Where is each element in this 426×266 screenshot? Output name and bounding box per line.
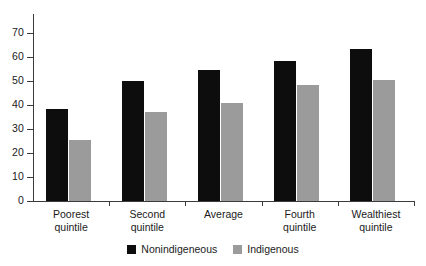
x-axis-category-label: Average	[185, 208, 261, 221]
y-axis-tick	[27, 129, 34, 130]
x-axis-tick	[185, 201, 186, 206]
y-axis-tick-label: 60	[0, 50, 24, 62]
y-axis-tick	[27, 177, 34, 178]
y-axis-tick	[27, 57, 34, 58]
x-axis-line	[33, 201, 414, 202]
x-axis-category-label: Wealthiestquintile	[338, 208, 414, 233]
y-axis-tick-label: 10	[0, 170, 24, 182]
y-axis-tick	[27, 105, 34, 106]
x-axis-tick	[414, 201, 415, 206]
x-axis-category-label: Fourthquintile	[262, 208, 338, 233]
bar	[198, 70, 220, 201]
y-axis-tick	[27, 201, 34, 202]
bar	[145, 112, 167, 201]
x-axis-tick	[109, 201, 110, 206]
legend-swatch-icon	[233, 245, 242, 254]
x-axis-category-label-line: quintile	[338, 221, 414, 234]
bar	[297, 85, 319, 201]
legend-item: Nonindigeneous	[127, 243, 217, 255]
bar	[122, 81, 144, 201]
y-axis-tick-label: 70	[0, 26, 24, 38]
y-axis-tick-label: 50	[0, 74, 24, 86]
bar	[373, 80, 395, 201]
x-axis-category-label-line: quintile	[109, 221, 185, 234]
chart-legend: NonindigeneousIndigenous	[0, 243, 426, 255]
x-axis-category-label-line: quintile	[33, 221, 109, 234]
legend-label: Nonindigeneous	[141, 243, 217, 255]
x-axis-tick	[338, 201, 339, 206]
x-axis-category-label-line: Average	[185, 208, 261, 221]
x-axis-category-label-line: Poorest	[33, 208, 109, 221]
x-axis-category-label: Secondquintile	[109, 208, 185, 233]
bar	[69, 140, 91, 201]
x-axis-category-label: Poorestquintile	[33, 208, 109, 233]
legend-label: Indigenous	[247, 243, 298, 255]
y-axis-tick	[27, 81, 34, 82]
y-axis-tick-label: 30	[0, 122, 24, 134]
legend-item: Indigenous	[233, 243, 298, 255]
bar	[221, 103, 243, 201]
y-axis-tick	[27, 33, 34, 34]
x-axis-category-label-line: quintile	[262, 221, 338, 234]
x-axis-tick	[262, 201, 263, 206]
legend-swatch-icon	[127, 245, 136, 254]
bar	[350, 49, 372, 201]
x-axis-category-label-line: Wealthiest	[338, 208, 414, 221]
bar-chart: 010203040506070 PoorestquintileSecondqui…	[0, 0, 426, 266]
y-axis-tick-label: 0	[0, 194, 24, 206]
y-axis-tick-label: 20	[0, 146, 24, 158]
y-axis-tick-label: 40	[0, 98, 24, 110]
bar	[46, 109, 68, 201]
y-axis-tick	[27, 153, 34, 154]
bars-layer	[34, 14, 414, 201]
x-axis-category-label-line: Fourth	[262, 208, 338, 221]
bar	[274, 61, 296, 201]
x-axis-category-label-line: Second	[109, 208, 185, 221]
